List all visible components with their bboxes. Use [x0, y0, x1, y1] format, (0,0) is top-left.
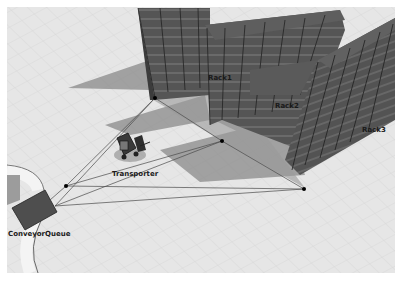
- rack3-label: Rack3: [362, 126, 386, 134]
- network-node[interactable]: [302, 187, 306, 191]
- network-node[interactable]: [64, 184, 68, 188]
- rack1[interactable]: [138, 8, 210, 100]
- model-3d-view[interactable]: Rack1 Rack2 Rack3 Transporter ConveyorQu…: [7, 7, 395, 273]
- conveyor-queue-label: ConveyorQueue: [8, 230, 71, 238]
- rack2-label: Rack2: [275, 102, 299, 110]
- scene-canvas[interactable]: Rack1 Rack2 Rack3 Transporter ConveyorQu…: [7, 7, 395, 273]
- transporter-label: Transporter: [112, 170, 159, 178]
- rack1-label: Rack1: [208, 74, 232, 82]
- network-node[interactable]: [153, 96, 157, 100]
- network-node[interactable]: [220, 139, 224, 143]
